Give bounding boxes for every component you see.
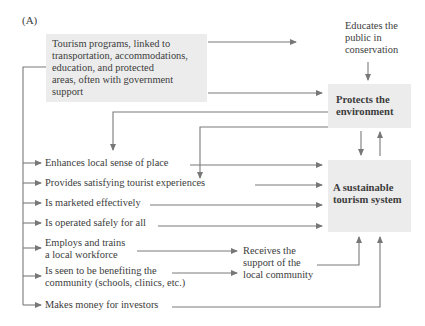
outcome-employs: a local workforce [45, 249, 118, 261]
sustainable-line: tourism system [333, 194, 402, 206]
receives-line: support of the [243, 257, 301, 269]
outcome-enhances: Enhances local sense of place [45, 157, 168, 169]
protects-environment-box: Protects the environment [328, 84, 411, 128]
outcome-makes-money: Makes money for investors [45, 299, 158, 311]
outcome-marketed: Is marketed effectively [45, 197, 141, 209]
educates-line: conservation [345, 44, 398, 56]
protects-line: Protects the [336, 94, 390, 106]
educates-line: public in [345, 32, 382, 44]
sustainable-line: A sustainable [333, 182, 393, 194]
protects-line: environment [336, 106, 393, 118]
source-line: transportation, accommodations, [52, 50, 188, 62]
outcome-provides: Provides satisfying tourist experiences [45, 177, 205, 189]
sustainable-tourism-box: A sustainable tourism system [328, 160, 411, 232]
outcome-employs: Employs and trains [45, 237, 125, 249]
source-line: education, and protected [52, 62, 154, 74]
outcome-benefiting: Is seen to be benefiting the [45, 265, 157, 277]
source-line: Tourism programs, linked to [52, 38, 170, 50]
tourism-programs-box: Tourism programs, linked to transportati… [46, 34, 207, 102]
source-line: support [52, 86, 83, 98]
source-line: areas, often with government [52, 74, 173, 86]
outcome-benefiting: community (schools, clinics, etc.) [45, 277, 185, 289]
educates-line: Educates the [345, 20, 398, 32]
receives-line: Receives the [243, 245, 296, 257]
receives-line: local community [243, 269, 313, 281]
panel-label: (A) [22, 14, 37, 26]
outcome-operated: Is operated safely for all [45, 217, 146, 229]
